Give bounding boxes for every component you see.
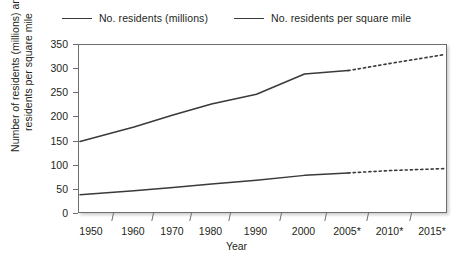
series-residents-per-square-mile	[80, 55, 444, 142]
y-axis-title-line-1: Number of residents (millions) and	[9, 0, 22, 152]
y-tick-label-300: 300	[30, 63, 68, 74]
x-tick-mark-7	[366, 213, 369, 221]
x-tick-mark-8	[409, 213, 412, 221]
x-tick-mark-1	[111, 213, 114, 221]
plot-lines	[79, 45, 448, 214]
x-tick-label-1990: 1990	[244, 225, 267, 237]
line-residents-millions-projected	[348, 169, 444, 173]
plot-area	[78, 44, 447, 213]
chart-legend: No. residents (millions) No. residents p…	[0, 7, 473, 29]
legend-label-residents-per-square-mile: No. residents per square mile	[271, 12, 411, 24]
y-tick-label-100: 100	[30, 159, 68, 170]
series-residents-millions	[80, 169, 444, 195]
y-tick-label-150: 150	[30, 135, 68, 146]
x-tick-mark-6	[324, 213, 327, 221]
x-tick-label-2000: 2000	[292, 225, 315, 237]
x-tick-label-1960: 1960	[121, 225, 144, 237]
legend-entry-residents-millions: No. residents (millions)	[62, 12, 208, 24]
y-axis-tick-labels: 050100150200250300350	[28, 0, 68, 259]
x-axis-title: Year	[0, 240, 473, 252]
y-tick-label-50: 50	[30, 183, 68, 194]
x-tick-label-1970: 1970	[160, 225, 183, 237]
legend-line-swatch-residents-per-square-mile	[234, 18, 264, 19]
y-tick-label-200: 200	[30, 111, 68, 122]
x-tick-mark-3	[189, 213, 192, 221]
x-tick-label-1980: 1980	[199, 225, 222, 237]
chart-figure: No. residents (millions) No. residents p…	[0, 0, 473, 259]
y-tick-label-250: 250	[30, 87, 68, 98]
y-tick-mark-0	[73, 213, 78, 214]
x-tick-label-2015p: 2015*	[418, 225, 445, 237]
legend-entry-residents-per-square-mile: No. residents per square mile	[234, 12, 411, 24]
x-tick-label-2010p: 2010*	[376, 225, 403, 237]
line-residents-per-square-mile-projected	[348, 55, 444, 71]
x-tick-label-2005p: 2005*	[333, 225, 360, 237]
x-tick-mark-4	[228, 213, 231, 221]
y-tick-label-350: 350	[30, 39, 68, 50]
line-residents-millions-actual	[80, 173, 348, 195]
x-tick-mark-2	[151, 213, 154, 221]
line-residents-per-square-mile-actual	[80, 71, 348, 142]
legend-label-residents-millions: No. residents (millions)	[99, 12, 208, 24]
x-tick-mark-5	[279, 213, 282, 221]
x-tick-label-1950: 1950	[79, 225, 102, 237]
y-tick-label-0: 0	[30, 208, 68, 219]
